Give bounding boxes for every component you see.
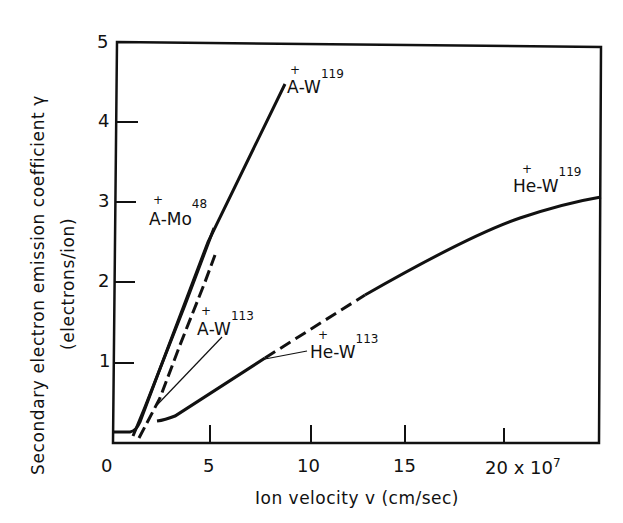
- y-tick-3: 3: [98, 192, 109, 210]
- annotation-a-mo48: A+-Mo48: [149, 208, 207, 228]
- x-tick-0: 0: [101, 457, 112, 475]
- series-he-w-lower: [157, 358, 265, 421]
- x-tick-20: 20 x 107: [485, 457, 561, 477]
- series-a-w113: [139, 255, 215, 438]
- x-axis-label: Ion velocity v (cm/sec): [255, 490, 459, 507]
- series-a-w119: [113, 84, 285, 432]
- y-axis-label-line1: Secondary electron emission coefficient …: [28, 95, 48, 475]
- x-axis-ticks: [210, 425, 504, 443]
- x-tick-10: 10: [297, 457, 320, 475]
- y-tick-4: 4: [98, 112, 109, 130]
- x-tick-15: 15: [393, 457, 416, 475]
- annotation-a-w119: A+-W119: [287, 76, 344, 96]
- x-tick-5: 5: [203, 457, 214, 475]
- y-tick-1: 1: [99, 352, 110, 370]
- y-axis-label-line2: (electrons/ion): [58, 218, 78, 350]
- annotation-a-w113: A+-W113: [197, 318, 254, 338]
- plot-frame: [113, 42, 601, 443]
- y-axis-ticks: [114, 122, 138, 363]
- y-tick-2: 2: [98, 272, 109, 290]
- annotation-he-w119: He+-W119: [513, 175, 581, 195]
- y-tick-5: 5: [97, 33, 108, 51]
- annotation-he-w113: He+-W113: [310, 341, 378, 361]
- series-he-w119: [365, 197, 601, 295]
